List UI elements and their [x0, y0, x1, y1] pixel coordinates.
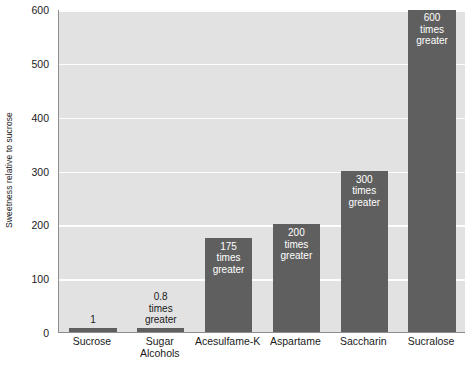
bar-group: 1 — [69, 10, 116, 332]
bar-value-label-line: times — [408, 24, 455, 36]
bar-value-label: 300timesgreater — [341, 174, 388, 209]
bar-group: 200timesgreater — [273, 10, 320, 332]
bar-value-label-line: 1 — [58, 314, 131, 326]
x-axis-tick-label-line: Alcohols — [126, 348, 194, 360]
x-axis-tick-label: Saccharin — [329, 336, 397, 348]
y-axis-tick-label: 400 — [31, 113, 49, 123]
bar-group: 175timesgreater — [205, 10, 252, 332]
bar[interactable]: 600timesgreater — [408, 10, 455, 332]
bar-value-label-line: 175 — [205, 241, 252, 253]
x-axis-tick-label: Acesulfame-K — [194, 336, 262, 348]
bar[interactable] — [69, 328, 116, 333]
x-axis-tick-label-line: Sucralose — [397, 336, 465, 348]
bar-value-label-line: times — [341, 185, 388, 197]
y-axis-tick-label: 100 — [31, 274, 49, 284]
x-axis-tick-label-line: Aspartame — [262, 336, 330, 348]
bar-value-label-line: times — [205, 252, 252, 264]
y-axis-tick-label: 200 — [31, 220, 49, 230]
y-axis-tick-label: 600 — [31, 5, 49, 15]
x-axis-tick-label-line: Acesulfame-K — [194, 336, 262, 348]
bar-value-label: 1 — [58, 314, 131, 326]
bar-group: 600timesgreater — [408, 10, 455, 332]
bar-value-label-line: greater — [341, 197, 388, 209]
x-axis-tick-label: Sucrose — [58, 336, 126, 348]
bar-chart: Sweetness relative to sucrose 0100200300… — [0, 0, 472, 369]
bar-group: 300timesgreater — [341, 10, 388, 332]
bar-value-label-line: 600 — [408, 12, 455, 24]
y-axis-tick-label: 0 — [43, 328, 49, 338]
bar-value-label-line: 0.8 — [123, 291, 198, 303]
bar-value-label-line: 300 — [341, 174, 388, 186]
x-axis-tick-label: Aspartame — [262, 336, 330, 348]
bar-value-label: 0.8timesgreater — [123, 291, 198, 326]
bar-value-label-line: 200 — [273, 227, 320, 239]
bar[interactable]: 300timesgreater — [341, 171, 388, 333]
y-axis-title-label: Sweetness relative to sucrose — [4, 112, 14, 228]
y-axis-tick-labels: 0100200300400500600 — [18, 0, 54, 369]
x-axis-tick-label: SugarAlcohols — [126, 336, 194, 359]
bar-value-label-line: greater — [123, 314, 198, 326]
bar-value-label-line: times — [273, 239, 320, 251]
bar-value-label-line: times — [123, 303, 198, 315]
bar-value-label-line: greater — [408, 35, 455, 47]
bars-layer: 10.8timesgreater175timesgreater200timesg… — [59, 10, 465, 332]
y-axis-tick-label: 300 — [31, 167, 49, 177]
x-axis-tick-labels: SucroseSugarAlcoholsAcesulfame-KAspartam… — [58, 336, 465, 369]
bar[interactable] — [137, 328, 184, 333]
x-axis-tick-label-line: Sucrose — [58, 336, 126, 348]
y-axis-tick-label: 500 — [31, 59, 49, 69]
plot-area: 10.8timesgreater175timesgreater200timesg… — [58, 10, 465, 333]
bar-value-label-line: greater — [273, 250, 320, 262]
bar[interactable]: 175timesgreater — [205, 238, 252, 332]
x-axis-tick-label: Sucralose — [397, 336, 465, 348]
bar-value-label-line: greater — [205, 264, 252, 276]
y-axis-title: Sweetness relative to sucrose — [0, 0, 18, 340]
bar-value-label: 200timesgreater — [273, 227, 320, 262]
bar[interactable]: 200timesgreater — [273, 224, 320, 332]
bar-value-label: 600timesgreater — [408, 12, 455, 47]
bar-group: 0.8timesgreater — [137, 10, 184, 332]
x-axis-tick-label-line: Sugar — [126, 336, 194, 348]
x-axis-tick-label-line: Saccharin — [329, 336, 397, 348]
bar-value-label: 175timesgreater — [205, 241, 252, 276]
